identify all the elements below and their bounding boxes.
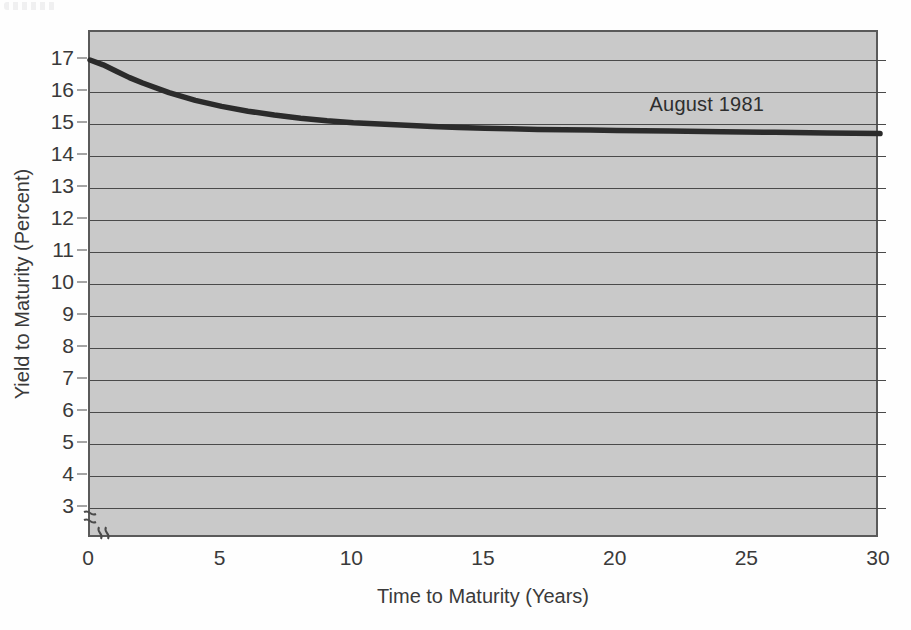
x-tick-label-25: 25 [735, 546, 758, 570]
x-axis-break-icon [96, 524, 122, 554]
y-tick-mark-16 [77, 90, 87, 91]
y-tick-label-10: 10 [28, 270, 74, 294]
x-tick-label-5: 5 [214, 546, 226, 570]
y-tick-mark-6 [77, 410, 87, 411]
y-tick-label-9: 9 [28, 302, 74, 326]
y-tick-label-5: 5 [28, 430, 74, 454]
y-tick-label-13: 13 [28, 174, 74, 198]
y-tick-mark-4 [77, 474, 87, 475]
x-tick-label-0: 0 [82, 546, 94, 570]
y-tick-label-15: 15 [28, 110, 74, 134]
y-tick-label-4: 4 [28, 462, 74, 486]
y-axis-title-wrapper: Yield to Maturity (Percent) [28, 30, 29, 537]
x-tick-label-30: 30 [866, 546, 889, 570]
y-tick-label-11: 11 [28, 238, 74, 262]
y-tick-mark-9 [77, 314, 87, 315]
x-axis-title: Time to Maturity (Years) [88, 585, 878, 608]
y-tick-label-14: 14 [28, 142, 74, 166]
y-tick-label-8: 8 [28, 334, 74, 358]
y-tick-mark-11 [77, 250, 87, 251]
yield-curve-figure: August 1981 34567891011121314151617 Yiel… [0, 0, 911, 630]
scan-artifact [4, 2, 56, 10]
y-tick-mark-7 [77, 378, 87, 379]
y-tick-mark-12 [77, 218, 87, 219]
y-tick-label-17: 17 [28, 46, 74, 70]
y-tick-label-12: 12 [28, 206, 74, 230]
x-tick-label-10: 10 [340, 546, 363, 570]
y-tick-mark-15 [77, 122, 87, 123]
y-axis-title: Yield to Maturity (Percent) [11, 74, 34, 494]
y-tick-label-6: 6 [28, 398, 74, 422]
y-tick-mark-3 [77, 506, 87, 507]
y-tick-mark-13 [77, 186, 87, 187]
y-tick-mark-17 [77, 58, 87, 59]
x-tick-label-15: 15 [471, 546, 494, 570]
y-tick-label-7: 7 [28, 366, 74, 390]
series-annotation-august-1981: August 1981 [650, 93, 765, 116]
x-tick-label-20: 20 [603, 546, 626, 570]
y-tick-label-3: 3 [28, 494, 74, 518]
y-tick-mark-14 [77, 154, 87, 155]
y-tick-mark-5 [77, 442, 87, 443]
y-tick-mark-8 [77, 346, 87, 347]
y-tick-label-16: 16 [28, 78, 74, 102]
y-tick-mark-10 [77, 282, 87, 283]
